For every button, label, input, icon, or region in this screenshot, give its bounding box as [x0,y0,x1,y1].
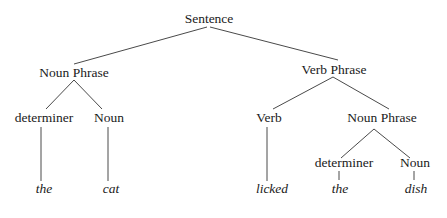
node-noun-subject: Noun [94,110,124,125]
edge-sentence-to-np1 [74,27,207,64]
node-determiner-object: determiner [315,155,374,170]
edge-np1-to-noun1 [74,80,102,109]
node-verb-phrase: Verb Phrase [302,62,367,77]
word-the-subject: the [36,181,53,196]
word-dish: dish [405,181,428,196]
word-licked: licked [256,181,288,196]
node-noun-phrase-subject: Noun Phrase [39,65,108,80]
word-cat: cat [103,181,121,196]
edge-np2-to-noun2 [374,129,410,158]
word-the-object: the [332,181,349,196]
edge-vp-to-np2 [333,77,389,109]
node-sentence: Sentence [185,11,234,26]
parse-tree-diagram: Sentence Noun Phrase Verb Phrase determi… [0,0,447,218]
node-noun-object: Noun [400,155,430,170]
edge-sentence-to-vp [210,27,338,60]
edge-vp-to-verb [273,77,333,109]
node-determiner-subject: determiner [15,110,74,125]
node-verb: Verb [256,110,282,125]
node-noun-phrase-object: Noun Phrase [347,110,416,125]
edge-np2-to-det2 [341,129,374,158]
edge-np1-to-det1 [46,80,74,109]
